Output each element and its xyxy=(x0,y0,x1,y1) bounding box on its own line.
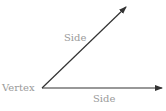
angle-diagram: Side Vertex Side xyxy=(0,0,166,111)
upper-side-label: Side xyxy=(64,33,86,43)
lower-side-label: Side xyxy=(93,94,115,104)
upper-side-ray xyxy=(42,7,126,88)
angle-rays xyxy=(0,0,166,111)
vertex-label: Vertex xyxy=(2,83,35,93)
